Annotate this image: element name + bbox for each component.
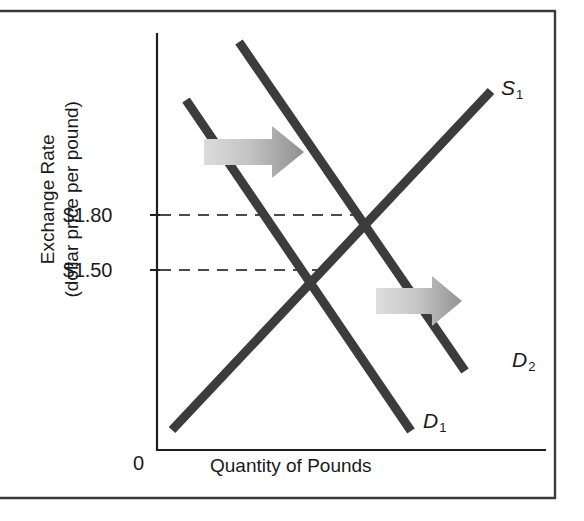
origin-label: 0 — [133, 452, 144, 475]
shift-arrow-lower — [376, 276, 462, 326]
curve-label-s1-base: S — [501, 76, 515, 99]
exchange-rate-diagram: $1.80 $1.50 0 Quantity of Pounds Exchang… — [0, 0, 584, 521]
y-axis-title: Exchange Rate (dollar price per pound) — [36, 84, 85, 314]
curve-label-d1-base: D — [423, 409, 438, 432]
x-axis-title: Quantity of Pounds — [210, 455, 372, 477]
shift-arrow-upper — [204, 126, 304, 178]
curve-label-d1: D1 — [423, 409, 445, 433]
curve-label-d1-subscript: 1 — [439, 420, 446, 435]
curve-label-s1: S1 — [501, 76, 522, 100]
curve-label-d2-subscript: 2 — [528, 359, 535, 374]
curve-label-d2: D2 — [512, 348, 534, 372]
curve-label-d2-base: D — [512, 348, 527, 371]
y-axis-title-line-1: Exchange Rate — [36, 84, 60, 314]
curve-label-s1-subscript: 1 — [516, 87, 523, 102]
y-axis-title-line-2: (dollar price per pound) — [60, 84, 84, 314]
